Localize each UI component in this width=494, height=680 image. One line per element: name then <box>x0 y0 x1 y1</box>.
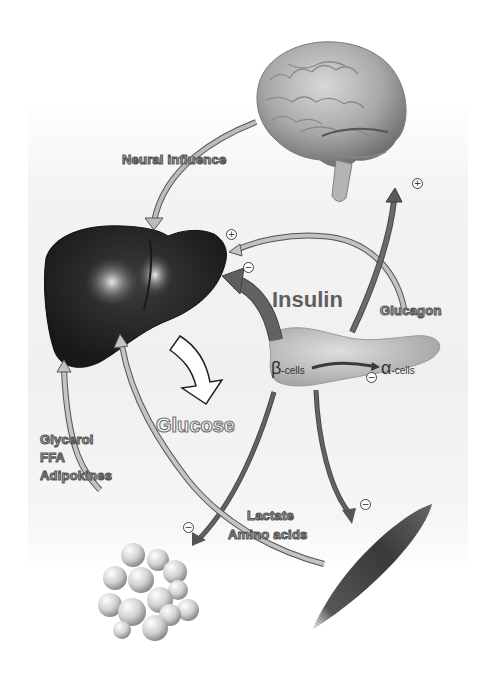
label-lactate: Lactate <box>247 508 294 523</box>
alpha-symbol: α <box>381 358 391 378</box>
minus-sign-adipose: − <box>183 522 194 533</box>
plus-sign-brain: + <box>412 178 423 189</box>
minus-sign-insulin: − <box>243 262 254 273</box>
beta-symbol: β <box>271 358 281 378</box>
insulin-arrow <box>222 268 276 340</box>
glucose-arrow <box>170 336 222 404</box>
minus-sign-muscle: − <box>360 499 371 510</box>
label-beta-cells: β-cells <box>271 358 305 379</box>
label-alpha-cells: α-cells <box>381 358 415 379</box>
label-glucose: Glucose <box>156 414 235 437</box>
liver-illustration <box>44 226 226 368</box>
minus-sign-beta-alpha: − <box>366 372 377 383</box>
label-glycerol: Glycerol <box>40 432 94 447</box>
beta-suffix: -cells <box>281 365 304 376</box>
pancreas-to-muscle-arrow <box>316 390 356 524</box>
label-adipokines: Adipokines <box>40 468 112 483</box>
label-glucagon: Glucagon <box>380 303 442 318</box>
alpha-suffix: -cells <box>391 365 414 376</box>
label-insulin: Insulin <box>272 287 343 313</box>
label-amino-acids: Amino acids <box>228 527 308 542</box>
diagram-canvas <box>0 0 494 680</box>
label-neural-influence: Neural influence <box>122 152 226 167</box>
muscle-illustration <box>312 504 432 630</box>
label-ffa: FFA <box>40 450 65 465</box>
brain-illustration <box>257 42 406 202</box>
plus-sign-glucagon: + <box>226 229 237 240</box>
neural-influence-arrow <box>145 122 256 230</box>
adipose-illustration <box>98 543 199 641</box>
